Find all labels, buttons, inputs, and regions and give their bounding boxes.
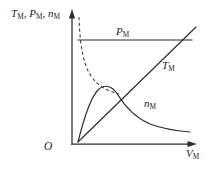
curve-torque-tm xyxy=(78,27,196,142)
curve-label-nm-subscript: M xyxy=(150,103,157,111)
curve-label-pm: PM xyxy=(116,26,129,39)
curve-label-tm: TM xyxy=(162,60,175,73)
y-axis-subscript-n: M xyxy=(53,13,60,21)
curve-asymptote-dashed xyxy=(79,17,119,94)
x-axis-subscript: M xyxy=(193,153,200,161)
chart-canvas xyxy=(0,0,215,169)
curve-label-tm-subscript: M xyxy=(168,65,175,73)
y-axis-symbol-p: P xyxy=(29,7,36,19)
curve-label-nm: nM xyxy=(144,98,156,111)
figure-container: TM, PM, nM VM O PM TM nM xyxy=(0,0,215,169)
x-axis-label: VM xyxy=(186,148,199,161)
curve-label-pm-symbol: P xyxy=(116,25,123,37)
y-axis-label: TM, PM, nM xyxy=(11,8,60,21)
x-axis-symbol: V xyxy=(186,147,193,159)
curve-speed-nm xyxy=(78,86,190,142)
origin-label: O xyxy=(44,141,52,153)
y-axis-arrow-icon xyxy=(69,9,75,19)
curve-label-pm-subscript: M xyxy=(123,31,130,39)
